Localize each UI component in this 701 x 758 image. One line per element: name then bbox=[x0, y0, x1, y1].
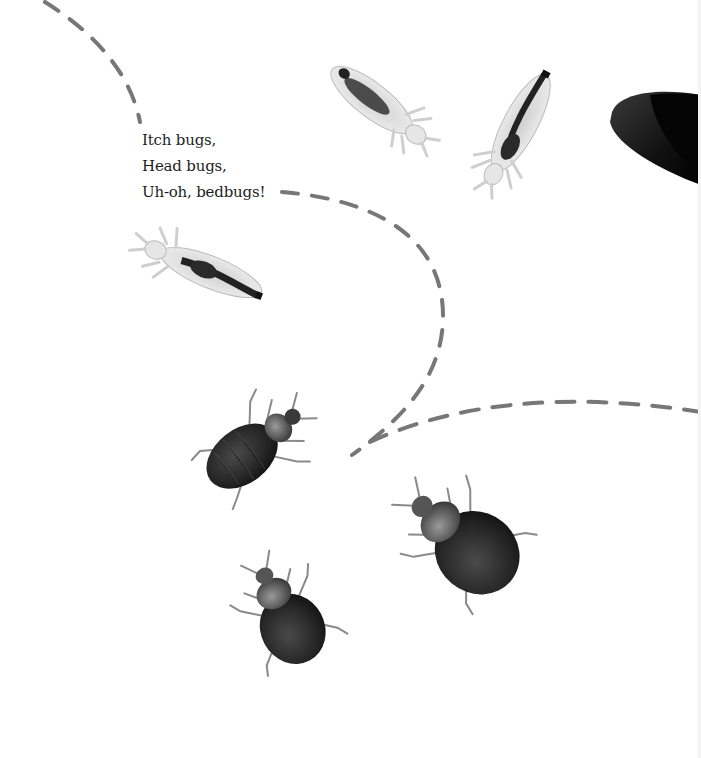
verse-line-1: Itch bugs, bbox=[142, 127, 265, 153]
dashed-path-top bbox=[45, 2, 140, 122]
book-page: Itch bugs, Head bugs, Uh-oh, bedbugs! bbox=[0, 0, 701, 758]
bedbug-icon bbox=[372, 451, 545, 619]
verse-text: Itch bugs, Head bugs, Uh-oh, bedbugs! bbox=[142, 127, 265, 205]
head-louse-icon bbox=[124, 215, 274, 318]
bedbug-icon bbox=[182, 371, 335, 518]
verse-line-2: Head bugs, bbox=[142, 153, 265, 179]
dark-shell-icon bbox=[610, 92, 701, 185]
dashed-path-loop bbox=[282, 192, 443, 455]
dashed-path-right bbox=[370, 402, 701, 442]
verse-line-3: Uh-oh, bedbugs! bbox=[142, 179, 265, 205]
head-louse-icon bbox=[318, 49, 450, 167]
bedbug-icon bbox=[216, 537, 350, 682]
illustration-layer bbox=[0, 0, 701, 758]
head-louse-icon bbox=[460, 60, 571, 206]
